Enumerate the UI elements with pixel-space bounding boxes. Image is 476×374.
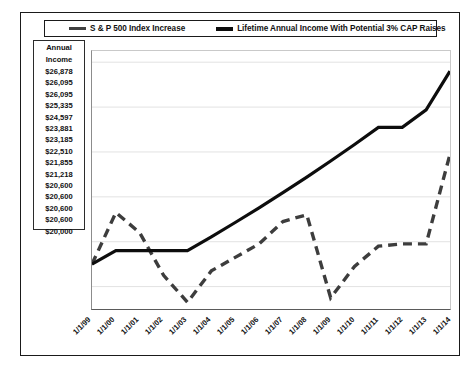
annual-income-cell: $21,855	[34, 157, 84, 168]
legend-entry-sp500: S & P 500 Index Increase	[69, 24, 185, 33]
legend-label-sp500: S & P 500 Index Increase	[90, 24, 185, 33]
legend-entry-lifetime-income: Lifetime Annual Income With Potential 3%…	[216, 24, 445, 33]
legend-line-solid-icon	[216, 27, 233, 31]
annual-income-cell: $20,600	[34, 203, 84, 214]
chart-legend: S & P 500 Index Increase Lifetime Annual…	[44, 20, 437, 37]
legend-line-dashed-icon	[69, 27, 86, 31]
annual-income-cell: $23,881	[34, 123, 84, 134]
annual-income-header-line1: Annual	[34, 41, 84, 53]
legend-label-lifetime-income: Lifetime Annual Income With Potential 3%…	[237, 24, 445, 33]
annual-income-cell: $26,878	[34, 66, 84, 77]
annual-income-cell: $23,185	[34, 134, 84, 145]
annual-income-cell: $20,600	[34, 180, 84, 191]
annual-income-cell: $20,000	[34, 226, 84, 237]
annual-income-cell: $21,218	[34, 169, 84, 180]
annual-income-cell: $24,597	[34, 112, 84, 123]
annual-income-cell: $25,335	[34, 100, 84, 111]
annual-income-cell: $26,095	[34, 89, 84, 100]
annual-income-cell: $22,510	[34, 146, 84, 157]
annual-income-cell: $26,095	[34, 77, 84, 88]
chart-gridlines	[92, 62, 450, 286]
annual-income-rows: $26,878 $26,095 $26,095 $25,335 $24,597 …	[34, 66, 84, 237]
series-line-sp500	[92, 154, 450, 302]
chart-plot-area	[91, 50, 451, 310]
annual-income-cell: $20,600	[34, 214, 84, 225]
chart-screenshot: S & P 500 Index Increase Lifetime Annual…	[0, 0, 476, 374]
annual-income-table: Annual Income $26,878 $26,095 $26,095 $2…	[33, 40, 85, 230]
series-line-lifetime-income	[92, 71, 450, 264]
chart-plot-svg	[92, 51, 450, 309]
annual-income-cell: $20,600	[34, 191, 84, 202]
annual-income-header-line2: Income	[34, 53, 84, 65]
